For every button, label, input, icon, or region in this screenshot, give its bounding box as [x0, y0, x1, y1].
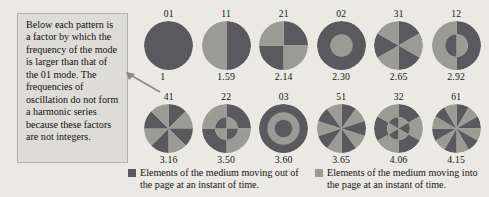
legend-text-into-page: Elements of the medium moving into the p… — [327, 167, 486, 192]
mode-cell-11: 111.59 — [198, 8, 256, 91]
mode-factor-03: 3.60 — [275, 154, 293, 166]
mode-label-51: 51 — [336, 91, 346, 103]
mode-factor-61: 4.15 — [447, 154, 465, 166]
mode-cell-31: 312.65 — [370, 8, 428, 91]
mode-pattern-51 — [317, 104, 366, 153]
mode-pattern-12 — [432, 21, 481, 70]
mode-label-61: 61 — [451, 91, 461, 103]
legend-swatch-into-page — [315, 169, 323, 177]
mode-cell-02: 022.30 — [313, 8, 371, 91]
mode-pattern-32 — [374, 104, 423, 153]
mode-pattern-22 — [202, 104, 251, 153]
mode-cell-22: 223.50 — [198, 91, 256, 174]
mode-factor-51: 3.65 — [332, 154, 350, 166]
mode-cell-51: 513.65 — [313, 91, 371, 174]
callout-box: Below each pattern is a factor by which … — [17, 13, 128, 163]
legend-text-out-of-page: Elements of the medium moving out of the… — [140, 167, 299, 192]
legend-swatch-out-of-page — [128, 169, 136, 177]
mode-factor-21: 2.14 — [275, 71, 293, 83]
mode-pattern-11 — [202, 21, 251, 70]
mode-factor-41: 3.16 — [160, 154, 178, 166]
mode-factor-12: 2.92 — [447, 71, 465, 83]
legend: Elements of the medium moving out of the… — [128, 167, 486, 192]
mode-factor-31: 2.65 — [390, 71, 408, 83]
mode-pattern-31 — [374, 21, 423, 70]
mode-label-03: 03 — [279, 91, 289, 103]
mode-cell-61: 614.15 — [428, 91, 486, 174]
mode-label-02: 02 — [336, 8, 346, 20]
mode-factor-01: 1 — [160, 71, 165, 83]
callout-text: Below each pattern is a factor by which … — [26, 19, 118, 142]
mode-pattern-02 — [317, 21, 366, 70]
mode-label-01: 01 — [164, 8, 174, 20]
legend-item-out-of-page: Elements of the medium moving out of the… — [128, 167, 299, 192]
mode-cell-12: 122.92 — [428, 8, 486, 91]
legend-item-into-page: Elements of the medium moving into the p… — [315, 167, 486, 192]
mode-label-22: 22 — [221, 91, 231, 103]
mode-label-32: 32 — [394, 91, 404, 103]
mode-cell-32: 324.06 — [370, 91, 428, 174]
mode-label-41: 41 — [164, 91, 174, 103]
mode-label-31: 31 — [394, 8, 404, 20]
mode-pattern-03 — [259, 104, 308, 153]
mode-factor-11: 1.59 — [217, 71, 235, 83]
mode-pattern-41 — [144, 104, 193, 153]
mode-label-11: 11 — [221, 8, 231, 20]
mode-cell-21: 212.14 — [255, 8, 313, 91]
mode-cell-41: 413.16 — [140, 91, 198, 174]
mode-pattern-61 — [432, 104, 481, 153]
mode-pattern-grid: 011111.59212.14022.30312.65122.92413.162… — [140, 8, 485, 174]
mode-pattern-21 — [259, 21, 308, 70]
mode-cell-01: 011 — [140, 8, 198, 91]
mode-factor-32: 4.06 — [390, 154, 408, 166]
mode-label-12: 12 — [451, 8, 461, 20]
mode-factor-02: 2.30 — [332, 71, 350, 83]
mode-label-21: 21 — [279, 8, 289, 20]
mode-cell-03: 033.60 — [255, 91, 313, 174]
mode-factor-22: 3.50 — [217, 154, 235, 166]
mode-pattern-01 — [144, 21, 193, 70]
